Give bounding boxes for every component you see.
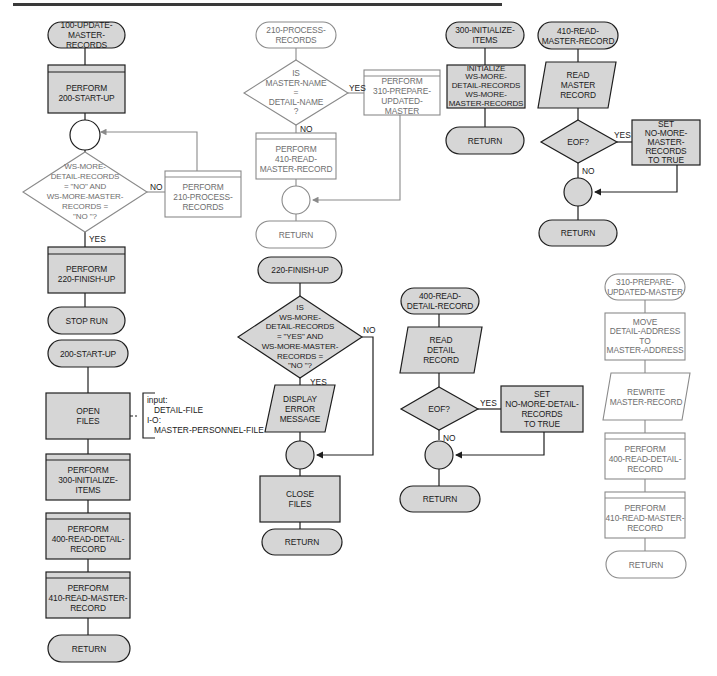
detail-eof-no-label: NO <box>443 433 456 443</box>
perform-400-read-detail-record-prepare: PERFORM 400-READ-DETAIL- RECORD <box>605 439 685 479</box>
return-terminal-finish: RETURN <box>262 529 342 555</box>
read-detail-record: READ DETAIL RECORD <box>404 327 478 373</box>
finish-no-label: NO <box>363 325 376 335</box>
return-terminal-prepare: RETURN <box>606 551 686 578</box>
rewrite-master-record: REWRITE MASTER-RECORD <box>605 373 687 420</box>
perform-220-finish-up: PERFORM 220-FINISH-UP <box>48 254 125 293</box>
set-no-more-detail-records: SET NO-MORE-DETAIL- RECORDS TO TRUE <box>501 386 583 432</box>
return-terminal-process: RETURN <box>256 221 336 248</box>
master-eof-decision: EOF? <box>548 132 608 152</box>
start-210-process-records: 210-PROCESS- RECORDS <box>256 22 336 48</box>
loop-decision-text: WS-MORE- DETAIL-RECORDS = "NO" AND WS-MO… <box>30 160 140 224</box>
perform-410-read-master-record: PERFORM 410-READ-MASTER- RECORD <box>46 578 130 618</box>
set-no-more-master-records: SET NO-MORE- MASTER- RECORDS TO TRUE <box>632 120 700 165</box>
master-eof-no-label: NO <box>582 166 595 176</box>
perform-300-initialize-items: PERFORM 300-INITIALIZE- ITEMS <box>46 460 130 500</box>
return-terminal-read-master: RETURN <box>539 220 617 246</box>
start-410-read-master-record: 410-READ- MASTER-RECORD <box>538 22 618 49</box>
read-master-record: READ MASTER RECORD <box>542 62 614 108</box>
name-match-decision-text: IS MASTER-NAME = DETAIL-NAME ? <box>256 68 336 118</box>
perform-410-read-master-record-process: PERFORM 410-READ- MASTER-RECORD <box>256 139 336 179</box>
start-200-start-up: 200-START-UP <box>48 340 128 367</box>
flowchart-canvas: 100-UPDATE- MASTER-RECORDS PERFORM 200-S… <box>0 0 717 676</box>
move-detail-address: MOVE DETAIL-ADDRESS TO MASTER-ADDRESS <box>605 313 685 360</box>
connector-circle <box>70 120 100 150</box>
start-300-initialize-items: 300-INITIALIZE- ITEMS <box>446 22 524 48</box>
perform-410-read-master-record-prepare: PERFORM 410-READ-MASTER- RECORD <box>605 498 685 538</box>
initialize-statement: INITIALIZE WS-MORE- DETAIL-RECORDS WS-MO… <box>447 65 525 108</box>
perform-200-start-up: PERFORM 200-START-UP <box>48 72 125 113</box>
return-terminal-read-detail: RETURN <box>400 486 480 512</box>
start-220-finish-up: 220-FINISH-UP <box>258 257 342 283</box>
file-annotation: input: DETAIL-FILE I-O: MASTER-PERSONNEL… <box>147 395 264 435</box>
return-terminal-startup: RETURN <box>48 635 130 662</box>
stop-run-terminal: STOP RUN <box>48 307 125 334</box>
loop-yes-label: YES <box>89 234 106 244</box>
close-files: CLOSE FILES <box>260 476 340 522</box>
detail-eof-yes-label: YES <box>480 398 497 408</box>
display-error-message: DISPLAY ERROR MESSAGE <box>265 385 335 432</box>
perform-400-read-detail-record: PERFORM 400-READ-DETAIL- RECORD <box>46 519 130 559</box>
process-no-label: NO <box>300 124 313 134</box>
start-400-read-detail-record: 400-READ- DETAIL-RECORD <box>401 288 479 314</box>
perform-310-prepare-updated-master: PERFORM 310-PREPARE- UPDATED- MASTER <box>364 76 440 115</box>
start-100-update-master-records: 100-UPDATE- MASTER-RECORDS <box>48 22 125 48</box>
loop-no-label: NO <box>150 182 163 192</box>
detail-eof-decision: EOF? <box>409 399 469 419</box>
return-terminal-init: RETURN <box>446 127 524 154</box>
finish-decision-text: IS WS-MORE- DETAIL-RECORDS = "YES" AND W… <box>250 302 350 372</box>
start-310-prepare-updated-master: 310-PREPARE- UPDATED-MASTER <box>605 274 685 300</box>
perform-210-process-records: PERFORM 210-PROCESS- RECORDS <box>165 177 241 217</box>
master-eof-yes-label: YES <box>614 130 631 140</box>
header-rule <box>13 3 502 6</box>
open-files: OPEN FILES <box>46 393 130 439</box>
